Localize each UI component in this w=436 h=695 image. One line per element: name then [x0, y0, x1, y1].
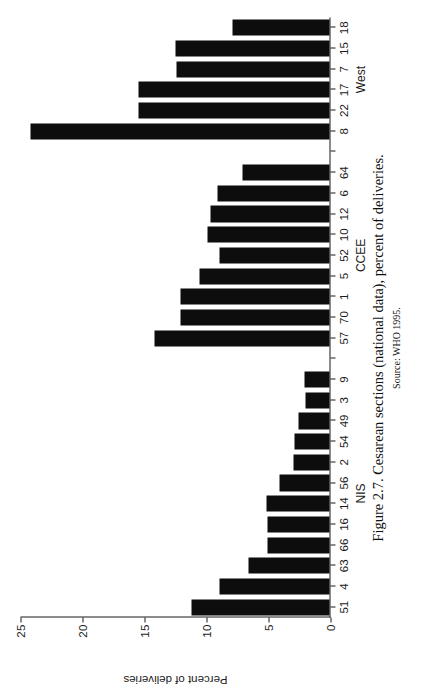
x-axis-category-label: 52 — [337, 249, 349, 262]
bar — [176, 61, 329, 77]
y-axis-tick — [82, 617, 83, 622]
bar — [30, 123, 329, 139]
y-axis-title: Percent of deliveries — [123, 673, 227, 685]
x-axis-category-label: 3 — [337, 397, 349, 403]
x-axis-tick — [330, 130, 335, 131]
y-axis-tick — [330, 617, 331, 622]
bar — [180, 288, 329, 304]
y-axis-tick — [206, 617, 207, 622]
x-axis-tick — [330, 399, 335, 400]
x-axis-category-label: 66 — [337, 538, 349, 551]
x-axis-category-label: 2 — [337, 459, 349, 465]
x-axis-category-label: 14 — [337, 497, 349, 510]
x-axis-category-label: 57 — [337, 331, 349, 344]
x-axis-category-label: 9 — [337, 376, 349, 382]
y-axis-tick-label: 10 — [200, 624, 212, 637]
plot-area: 0510152025 51463661614562544939577015521… — [20, 17, 330, 617]
x-axis-tick — [330, 419, 335, 420]
bar — [267, 516, 329, 532]
x-axis-tick — [330, 254, 335, 255]
x-axis-category-label: 54 — [337, 435, 349, 448]
x-axis-tick — [330, 47, 335, 48]
x-axis-tick — [330, 461, 335, 462]
group-label: CCEE — [353, 238, 367, 271]
x-axis-tick — [330, 275, 335, 276]
x-axis-category-label: 49 — [337, 414, 349, 427]
x-axis-tick — [330, 606, 335, 607]
x-axis-tick — [330, 150, 335, 151]
x-axis-category-label: 70 — [337, 311, 349, 324]
bar — [219, 247, 329, 263]
group-label: West — [353, 66, 367, 93]
bar — [266, 495, 329, 511]
x-axis-tick — [330, 502, 335, 503]
y-axis-tick-label: 25 — [14, 624, 26, 637]
bar — [232, 19, 329, 35]
x-axis-category-label: 5 — [337, 272, 349, 278]
x-axis-category-label: 22 — [337, 104, 349, 117]
bar — [267, 537, 329, 553]
x-axis-tick — [330, 171, 335, 172]
x-axis-tick — [330, 482, 335, 483]
y-axis-line — [20, 616, 330, 617]
bar — [180, 309, 329, 325]
x-axis-category-label: 6 — [337, 190, 349, 196]
bar — [199, 268, 329, 284]
bar — [298, 412, 329, 428]
x-axis-category-label: 56 — [337, 476, 349, 489]
x-axis-category-label: 51 — [337, 600, 349, 613]
x-axis-tick — [330, 585, 335, 586]
bar — [219, 578, 329, 594]
x-axis-tick — [330, 544, 335, 545]
bar — [191, 599, 329, 615]
x-axis-category-label: 10 — [337, 228, 349, 241]
group-label: NIS — [353, 483, 367, 503]
figure-page: Percent of deliveries 0510152025 5146366… — [0, 0, 436, 695]
x-axis-tick — [330, 295, 335, 296]
x-axis-category-label: 18 — [337, 21, 349, 34]
x-axis-category-label: 12 — [337, 207, 349, 220]
bar — [248, 557, 329, 573]
x-axis-category-label: 16 — [337, 518, 349, 531]
bar — [305, 392, 329, 408]
bar — [293, 454, 329, 470]
x-axis-tick — [330, 68, 335, 69]
x-axis-tick — [330, 378, 335, 379]
y-axis-tick-label: 15 — [138, 624, 150, 637]
x-axis-tick — [330, 109, 335, 110]
y-axis-tick — [144, 617, 145, 622]
x-axis-tick — [330, 233, 335, 234]
y-axis-tick-label: 20 — [76, 624, 88, 637]
bar — [294, 433, 329, 449]
x-axis-tick — [330, 440, 335, 441]
x-axis-tick — [330, 213, 335, 214]
bar — [207, 226, 329, 242]
bar — [138, 102, 329, 118]
bar — [154, 330, 329, 346]
x-axis-tick — [330, 88, 335, 89]
x-axis-category-label: 63 — [337, 559, 349, 572]
y-axis-tick — [268, 617, 269, 622]
x-axis-category-label: 15 — [337, 42, 349, 55]
y-axis-tick-label: 0 — [324, 624, 336, 631]
y-axis-tick — [20, 617, 21, 622]
bar — [210, 206, 329, 222]
figure-caption: Figure 2.7. Cesarean sections (national … — [368, 0, 386, 695]
x-axis-tick — [330, 316, 335, 317]
bar — [175, 40, 329, 56]
x-axis-category-label: 7 — [337, 66, 349, 72]
bar — [304, 371, 329, 387]
x-axis-category-label: 17 — [337, 83, 349, 96]
figure-source: Source: WHO 1995. — [390, 0, 401, 695]
x-axis-tick — [330, 26, 335, 27]
x-axis-tick — [330, 564, 335, 565]
bar — [217, 185, 329, 201]
x-axis-tick — [330, 192, 335, 193]
x-axis-category-label: 8 — [337, 128, 349, 134]
x-axis-tick — [330, 523, 335, 524]
x-axis-tick — [330, 357, 335, 358]
y-axis-tick-label: 5 — [262, 624, 274, 631]
rotated-figure-wrapper: Percent of deliveries 0510152025 5146366… — [0, 0, 436, 695]
x-axis-category-label: 64 — [337, 166, 349, 179]
x-axis-category-label: 1 — [337, 293, 349, 299]
